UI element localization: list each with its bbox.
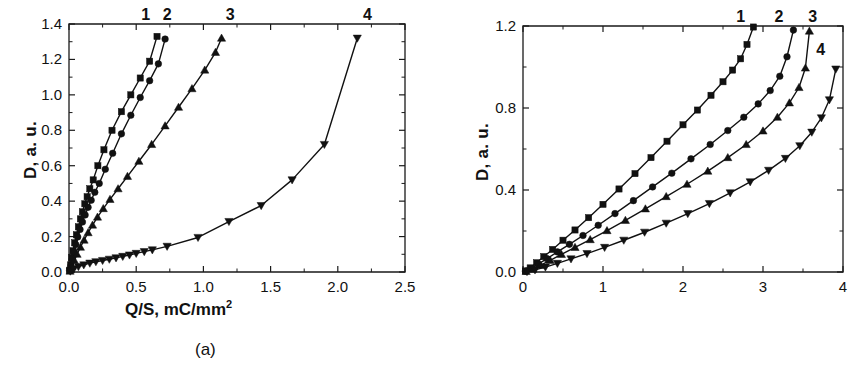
y-tick-label: 0.8 xyxy=(41,121,62,138)
x-tick-label: 4 xyxy=(839,278,847,295)
y-tick-label: 1.2 xyxy=(41,50,62,67)
data-point-circle xyxy=(612,210,619,217)
y-tick-label: 1.4 xyxy=(41,15,62,32)
series-line xyxy=(525,30,793,271)
series-1 xyxy=(522,24,756,274)
series-label-3: 3 xyxy=(226,6,235,23)
series-label-1: 1 xyxy=(141,6,150,23)
data-point-circle xyxy=(777,73,784,80)
data-point-circle xyxy=(77,226,84,233)
data-point-triangle-down xyxy=(746,179,754,186)
data-point-square xyxy=(720,79,726,85)
y-tick-label: 1.0 xyxy=(41,86,62,103)
x-axis-label-a-text: Q/S, mC/mm xyxy=(125,300,226,319)
series-label-4: 4 xyxy=(816,41,825,58)
data-point-triangle-down xyxy=(765,167,773,174)
data-point-circle xyxy=(595,222,602,229)
data-point-circle xyxy=(96,180,103,187)
data-point-triangle-down xyxy=(817,115,825,122)
y-tick-label: 1.2 xyxy=(495,17,516,34)
series-label-3: 3 xyxy=(808,8,817,25)
data-point-circle xyxy=(741,114,748,121)
data-point-circle xyxy=(630,197,637,204)
data-point-triangle-up xyxy=(211,48,219,55)
data-point-triangle-up xyxy=(88,221,96,228)
data-point-square xyxy=(738,56,744,62)
x-tick-label: 1.5 xyxy=(260,278,281,295)
data-point-circle xyxy=(649,184,656,191)
data-point-square xyxy=(750,24,756,30)
data-point-triangle-up xyxy=(641,205,649,212)
series-2 xyxy=(66,36,168,274)
data-point-triangle-down xyxy=(825,97,833,104)
y-tick-label: 0.8 xyxy=(495,99,516,116)
y-tick-label: 0.6 xyxy=(41,157,62,174)
data-point-square xyxy=(560,237,566,243)
y-tick-label: 0.2 xyxy=(41,228,62,245)
data-point-square xyxy=(744,41,750,47)
data-point-triangle-up xyxy=(201,66,209,73)
data-point-circle xyxy=(566,241,573,248)
data-point-circle xyxy=(79,219,86,226)
panel-caption-a: (a) xyxy=(195,340,216,360)
data-point-triangle-up xyxy=(603,226,611,233)
data-point-triangle-up xyxy=(217,34,225,41)
data-point-square xyxy=(648,155,654,161)
data-point-triangle-up xyxy=(704,167,712,174)
data-point-circle xyxy=(85,204,92,211)
y-axis-label-b: D, a. u. xyxy=(473,107,493,197)
data-point-circle xyxy=(88,197,95,204)
data-point-circle xyxy=(92,189,99,196)
data-point-circle xyxy=(137,94,144,101)
data-point-triangle-up xyxy=(795,83,803,90)
data-point-square xyxy=(616,186,622,192)
series-label-2: 2 xyxy=(775,8,784,25)
data-point-circle xyxy=(74,234,81,241)
x-tick-label: 1.0 xyxy=(193,278,214,295)
data-point-circle xyxy=(109,150,116,157)
data-point-circle xyxy=(707,141,714,148)
x-tick-label: 0.5 xyxy=(126,278,147,295)
x-tick-label: 2.5 xyxy=(395,278,416,295)
data-point-circle xyxy=(155,61,162,68)
data-point-triangle-up xyxy=(621,216,629,223)
data-point-square xyxy=(730,67,736,73)
data-point-triangle-up xyxy=(586,236,594,243)
y-tick-label: 0.0 xyxy=(495,263,516,280)
x-axis-label-a-exponent: 2 xyxy=(226,298,232,310)
data-point-circle xyxy=(688,156,695,163)
data-point-circle xyxy=(725,127,732,134)
data-point-circle xyxy=(669,170,676,177)
data-point-square xyxy=(154,33,160,39)
data-point-triangle-up xyxy=(801,64,809,71)
data-point-square xyxy=(90,177,96,183)
plot-area-b: 012340.00.40.81.21234 xyxy=(432,0,865,379)
data-point-triangle-down xyxy=(257,202,265,209)
data-point-square xyxy=(137,75,143,81)
data-point-triangle-up xyxy=(683,180,691,187)
y-tick-label: 0.0 xyxy=(41,263,62,280)
data-point-circle xyxy=(162,36,169,43)
chart-panel-b: 012340.00.40.81.21234 D, a. u. Q/S, mC/c… xyxy=(432,0,865,379)
data-point-triangle-down xyxy=(705,200,713,207)
data-point-triangle-up xyxy=(662,192,670,199)
data-point-triangle-down xyxy=(225,218,233,225)
x-tick-label: 2 xyxy=(679,278,687,295)
data-point-triangle-down xyxy=(726,190,734,197)
y-tick-label: 0.4 xyxy=(495,181,516,198)
data-point-square xyxy=(632,171,638,177)
data-point-square xyxy=(572,227,578,233)
data-point-circle xyxy=(784,53,791,60)
plot-frame xyxy=(69,24,405,272)
data-point-square xyxy=(708,92,714,98)
data-point-triangle-up xyxy=(724,154,732,161)
x-tick-label: 0.0 xyxy=(59,278,80,295)
x-tick-label: 3 xyxy=(759,278,767,295)
data-point-circle xyxy=(146,77,153,84)
x-axis-label-a: Q/S, mC/mm2 xyxy=(125,300,232,320)
data-point-triangle-down xyxy=(781,155,789,162)
data-point-circle xyxy=(82,212,89,219)
x-tick-label: 2.0 xyxy=(327,278,348,295)
data-point-square xyxy=(586,215,592,221)
data-point-square xyxy=(600,201,606,207)
